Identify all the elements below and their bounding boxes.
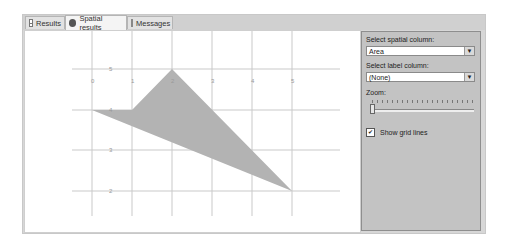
zoom-slider[interactable] <box>366 98 476 118</box>
tab-messages[interactable]: Messages <box>127 16 173 29</box>
svg-text:1: 1 <box>131 78 135 84</box>
tab-label: Results <box>36 19 61 28</box>
zoom-label: Zoom: <box>366 89 386 96</box>
spatial-column-select[interactable]: Area ▼ <box>366 46 475 56</box>
chevron-down-icon: ▼ <box>464 73 474 81</box>
label-column-label: Select label column: <box>366 62 429 69</box>
globe-icon <box>69 19 76 27</box>
y-tick-labels: 5 4 3 2 <box>109 66 113 194</box>
slider-track <box>370 109 474 112</box>
slider-ticks <box>372 100 474 103</box>
chevron-down-icon: ▼ <box>464 47 474 55</box>
tab-strip: Results Spatial results Messages <box>23 15 485 30</box>
grid-icon <box>29 19 33 27</box>
x-tick-labels: 0 1 2 3 4 5 <box>91 78 295 84</box>
svg-text:0: 0 <box>91 78 95 84</box>
spatial-plot: 0 1 2 3 4 5 5 4 3 2 <box>25 31 360 232</box>
label-column-select[interactable]: (None) ▼ <box>366 72 475 82</box>
area-polygon <box>92 69 292 191</box>
message-icon <box>131 19 133 27</box>
svg-text:4: 4 <box>251 78 255 84</box>
slider-thumb[interactable] <box>370 104 375 114</box>
spatial-canvas[interactable]: 0 1 2 3 4 5 5 4 3 2 <box>24 30 361 233</box>
checkmark-icon[interactable]: ✔ <box>366 128 375 137</box>
spatial-column-label: Select spatial column: <box>366 36 434 43</box>
tab-results[interactable]: Results <box>25 16 65 29</box>
show-grid-lines-checkbox[interactable]: ✔ Show grid lines <box>366 128 427 137</box>
results-window: Results Spatial results Messages <box>22 14 486 234</box>
svg-text:5: 5 <box>291 78 295 84</box>
tab-label: Messages <box>136 19 170 28</box>
svg-text:3: 3 <box>211 78 215 84</box>
spatial-options-panel: Select spatial column: Area ▼ Select lab… <box>361 31 481 231</box>
tab-spatial-results[interactable]: Spatial results <box>65 15 127 30</box>
